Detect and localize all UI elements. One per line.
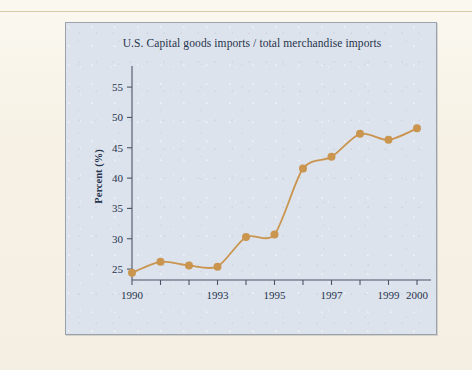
x-tick-labels: 199019931995199719992000 (121, 289, 429, 301)
svg-text:40: 40 (112, 172, 124, 184)
header-divider (0, 11, 472, 12)
svg-text:30: 30 (112, 233, 124, 245)
y-tick-labels: 25303540455055 (112, 81, 124, 275)
svg-text:1990: 1990 (121, 289, 144, 301)
svg-text:1999: 1999 (378, 289, 401, 301)
svg-text:1995: 1995 (264, 289, 287, 301)
svg-text:45: 45 (112, 142, 124, 154)
line-chart-plot: 25303540455055 199019931995199719992000 (66, 23, 438, 336)
svg-text:2000: 2000 (406, 289, 429, 301)
page-background: U.S. Capital goods imports / total merch… (0, 0, 472, 370)
svg-text:1997: 1997 (321, 289, 344, 301)
svg-text:1993: 1993 (207, 289, 230, 301)
chart-panel: U.S. Capital goods imports / total merch… (65, 22, 437, 335)
svg-text:35: 35 (112, 202, 124, 214)
data-series-layer (128, 124, 421, 276)
svg-text:50: 50 (112, 111, 124, 123)
axes-layer (127, 66, 431, 285)
svg-text:55: 55 (112, 81, 124, 93)
svg-text:25: 25 (112, 263, 124, 275)
